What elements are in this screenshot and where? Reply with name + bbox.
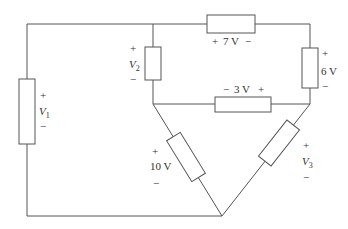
resistor-6v bbox=[302, 48, 318, 88]
resistor-v2 bbox=[145, 47, 161, 80]
v3-label: V3 bbox=[302, 155, 313, 170]
7v-minus: − bbox=[245, 35, 251, 47]
7v-label: 7 V bbox=[223, 35, 239, 47]
10v-label: 10 V bbox=[150, 160, 172, 172]
element-v3: + V3 − bbox=[258, 120, 312, 183]
v1-plus: + bbox=[40, 89, 46, 101]
10v-plus: + bbox=[152, 145, 158, 157]
resistor-7v bbox=[207, 15, 255, 33]
3v-minus: − bbox=[223, 83, 229, 95]
6v-label: 6 V bbox=[321, 65, 337, 77]
v2-minus: − bbox=[130, 73, 136, 85]
wires bbox=[27, 24, 310, 216]
v3-minus: − bbox=[303, 171, 309, 183]
7v-plus: + bbox=[212, 35, 218, 47]
v3-plus: + bbox=[303, 139, 309, 151]
element-v2: + V2 − bbox=[129, 42, 161, 85]
resistor-10v bbox=[167, 132, 206, 181]
6v-plus: + bbox=[322, 47, 328, 59]
element-3v: − 3 V + bbox=[215, 83, 271, 112]
v1-label: V1 bbox=[39, 105, 50, 120]
v2-plus: + bbox=[130, 42, 136, 54]
resistor-3v bbox=[215, 97, 271, 112]
circuit-diagram: + V1 − + V2 − + 7 V − + 6 V − − 3 V + + … bbox=[0, 0, 348, 229]
resistor-v1 bbox=[19, 79, 35, 144]
element-10v: + 10 V − bbox=[150, 132, 205, 189]
v1-minus: − bbox=[40, 120, 46, 132]
3v-plus: + bbox=[258, 83, 264, 95]
10v-minus: − bbox=[153, 177, 159, 189]
3v-label: 3 V bbox=[234, 83, 250, 95]
element-6v: + 6 V − bbox=[302, 47, 337, 92]
6v-minus: − bbox=[322, 80, 328, 92]
element-v1: + V1 − bbox=[19, 79, 50, 144]
resistor-v3 bbox=[258, 120, 299, 166]
element-7v: + 7 V − bbox=[207, 15, 255, 47]
v2-label: V2 bbox=[129, 58, 140, 73]
